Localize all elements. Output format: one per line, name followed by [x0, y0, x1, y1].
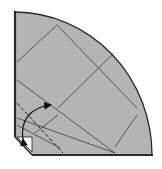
corner-flap: [17, 137, 32, 152]
origami-diagram: [0, 0, 162, 169]
